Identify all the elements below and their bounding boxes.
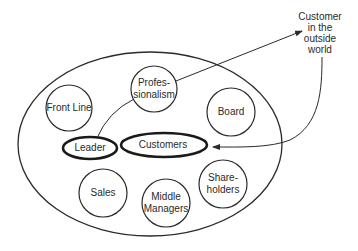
edge-professionalism-outside [176, 31, 302, 81]
edge-leader-professionalism [97, 99, 134, 138]
label-sales: Sales [90, 187, 115, 199]
label-front-line: Front Line [46, 102, 91, 114]
label-line: Sales [90, 187, 115, 199]
label-line: outside [298, 33, 341, 44]
label-line: Share- [207, 172, 240, 184]
label-shareholders: Share- holders [207, 172, 240, 196]
label-line: Profes- [133, 77, 175, 89]
label-leader: Leader [74, 142, 105, 154]
label-line: holders [207, 184, 240, 196]
label-line: Leader [74, 142, 105, 154]
label-line: Front Line [46, 102, 91, 114]
label-board: Board [218, 106, 245, 118]
label-line: sionalism [133, 89, 175, 101]
label-line: Board [218, 106, 245, 118]
label-line: in the [298, 22, 341, 33]
label-customers: Customers [139, 139, 187, 151]
label-line: Customers [139, 139, 187, 151]
label-line: world [298, 44, 341, 55]
label-line: Customer [298, 11, 341, 22]
label-line: Middle [144, 191, 188, 203]
label-professionalism: Profes- sionalism [133, 77, 175, 101]
label-line: Managers [144, 203, 188, 215]
label-customer-outside-world: Customer in the outside world [298, 11, 341, 55]
label-middle-managers: Middle Managers [144, 191, 188, 215]
